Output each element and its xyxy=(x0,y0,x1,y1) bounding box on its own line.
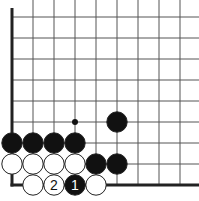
black-stone xyxy=(86,154,106,174)
black-stone xyxy=(107,154,127,174)
white-stone xyxy=(86,175,106,195)
stones-layer: 21 xyxy=(2,112,127,195)
star-point-icon xyxy=(72,119,78,125)
black-stone xyxy=(65,133,85,153)
move-number-label: 1 xyxy=(71,177,79,193)
white-stone xyxy=(23,175,43,195)
go-board: 21 xyxy=(0,0,199,201)
white-stone xyxy=(2,154,22,174)
white-stone xyxy=(23,154,43,174)
black-stone xyxy=(2,133,22,153)
move-number-label: 2 xyxy=(50,177,58,193)
white-stone xyxy=(65,154,85,174)
white-stone xyxy=(44,154,64,174)
black-stone xyxy=(107,112,127,132)
black-stone xyxy=(44,133,64,153)
black-stone xyxy=(23,133,43,153)
star-points xyxy=(72,119,78,125)
